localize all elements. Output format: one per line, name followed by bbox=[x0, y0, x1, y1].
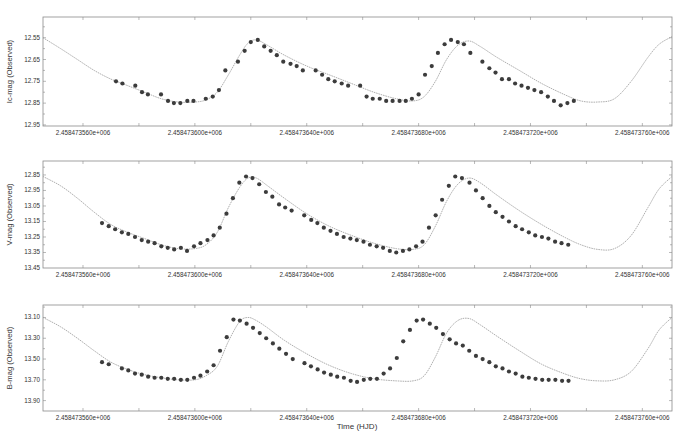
data-point bbox=[185, 378, 189, 382]
data-point bbox=[401, 249, 405, 253]
data-point bbox=[532, 88, 536, 92]
data-point bbox=[172, 247, 176, 251]
data-point bbox=[113, 227, 117, 231]
data-point bbox=[146, 375, 150, 379]
data-point bbox=[159, 92, 163, 96]
data-point bbox=[291, 357, 295, 361]
data-point bbox=[397, 99, 401, 103]
data-point bbox=[340, 81, 344, 85]
data-point bbox=[349, 379, 353, 383]
data-point bbox=[320, 73, 324, 77]
data-point bbox=[368, 243, 372, 247]
data-point bbox=[249, 40, 253, 44]
data-point bbox=[448, 337, 452, 341]
data-point bbox=[120, 81, 124, 85]
plot-frame bbox=[43, 305, 672, 411]
x-tick-label: 2.458473600e+006 bbox=[168, 414, 223, 421]
x-tick-label: 2.458473680e+006 bbox=[391, 129, 446, 136]
x-tick-label: 2.458473760e+006 bbox=[615, 271, 670, 278]
data-point bbox=[526, 86, 530, 90]
data-point bbox=[500, 366, 504, 370]
data-point bbox=[381, 246, 385, 250]
data-point bbox=[258, 331, 262, 335]
data-point bbox=[205, 238, 209, 242]
data-point bbox=[302, 213, 306, 217]
data-point bbox=[348, 236, 352, 240]
data-point bbox=[270, 195, 274, 199]
data-point bbox=[225, 335, 229, 339]
data-point bbox=[218, 226, 222, 230]
data-point bbox=[309, 218, 313, 222]
data-point bbox=[264, 190, 268, 194]
data-point bbox=[461, 343, 465, 347]
data-point bbox=[546, 94, 550, 98]
data-point bbox=[447, 184, 451, 188]
data-point bbox=[211, 94, 215, 98]
x-tick-label: 2.458473600e+006 bbox=[168, 129, 223, 136]
y-tick-label: 12.85 bbox=[24, 171, 40, 178]
data-point bbox=[453, 174, 457, 178]
data-point bbox=[223, 68, 227, 72]
y-tick-label: 12.65 bbox=[24, 56, 40, 63]
data-point bbox=[191, 99, 195, 103]
data-point bbox=[329, 373, 333, 377]
data-point bbox=[328, 229, 332, 233]
data-point bbox=[133, 84, 137, 88]
y-tick-label: 13.15 bbox=[24, 217, 40, 224]
data-point bbox=[269, 49, 273, 53]
y-tick-label: 12.75 bbox=[24, 77, 40, 84]
data-point bbox=[277, 202, 281, 206]
data-point bbox=[440, 198, 444, 202]
data-point bbox=[414, 244, 418, 248]
data-point bbox=[493, 70, 497, 74]
data-point bbox=[100, 360, 104, 364]
data-point bbox=[454, 341, 458, 345]
light-curve-figure: 12.5512.6512.7512.8512.952.458473560e+00… bbox=[0, 0, 690, 438]
data-point bbox=[245, 322, 249, 326]
data-point bbox=[364, 94, 368, 98]
data-point bbox=[547, 378, 551, 382]
data-point bbox=[434, 213, 438, 217]
data-point bbox=[408, 328, 412, 332]
x-tick-label: 2.458473720e+006 bbox=[503, 129, 558, 136]
x-tick-label: 2.458473760e+006 bbox=[615, 414, 670, 421]
data-point bbox=[185, 249, 189, 253]
data-point bbox=[362, 378, 366, 382]
x-tick-label: 2.458473760e+006 bbox=[615, 129, 670, 136]
data-point bbox=[572, 99, 576, 103]
x-tick-label: 2.458473680e+006 bbox=[391, 414, 446, 421]
data-point bbox=[423, 73, 427, 77]
data-point bbox=[275, 53, 279, 57]
data-point bbox=[500, 77, 504, 81]
data-point bbox=[481, 196, 485, 200]
y-axis-title: Ic-mag (Observed) bbox=[5, 39, 14, 103]
data-point bbox=[410, 97, 414, 101]
b-mag-panel: 13.1013.3013.5013.7013.902.458473560e+00… bbox=[5, 305, 672, 421]
data-point bbox=[237, 181, 241, 185]
data-point bbox=[140, 238, 144, 242]
data-point bbox=[375, 377, 379, 381]
data-point bbox=[520, 227, 524, 231]
data-point bbox=[243, 49, 247, 53]
data-point bbox=[256, 38, 260, 42]
y-tick-label: 13.35 bbox=[24, 248, 40, 255]
data-point bbox=[375, 244, 379, 248]
data-point bbox=[480, 60, 484, 64]
data-point bbox=[198, 241, 202, 245]
data-point bbox=[218, 349, 222, 353]
data-point bbox=[507, 219, 511, 223]
data-point bbox=[283, 205, 287, 209]
data-point bbox=[126, 368, 130, 372]
data-point bbox=[152, 241, 156, 245]
data-point bbox=[487, 360, 491, 364]
data-point bbox=[295, 64, 299, 68]
data-point bbox=[192, 376, 196, 380]
data-point bbox=[166, 246, 170, 250]
x-axis-title: Time (HJD) bbox=[337, 422, 378, 431]
data-point bbox=[284, 352, 288, 356]
data-point bbox=[428, 322, 432, 326]
y-tick-label: 12.55 bbox=[24, 34, 40, 41]
data-point bbox=[553, 240, 557, 244]
data-point bbox=[231, 317, 235, 321]
data-point bbox=[251, 326, 255, 330]
